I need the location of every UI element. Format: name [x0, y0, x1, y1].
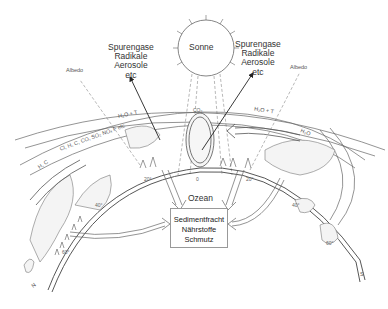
sink-line: Nährstoffe — [171, 225, 227, 235]
atmosphere-diagram: Sonne Spurengase Radikale Aerosole etc S… — [0, 0, 388, 309]
latitude-label: 60° — [62, 250, 70, 255]
central-cloud — [186, 113, 214, 167]
right-source-line: etc — [235, 68, 281, 77]
ocean-label: Ozean — [188, 194, 213, 203]
latitude-label: 20° — [246, 177, 254, 182]
sink-box: Sedimentfracht Nährstoffe Schmutz — [170, 208, 228, 248]
latitude-label: 0 — [196, 177, 199, 182]
latitude-label: 20° — [144, 177, 152, 182]
albedo-right-label: Albedo — [290, 65, 307, 71]
albedo-left-label: Albedo — [66, 68, 83, 74]
sun-label: Sonne — [189, 43, 214, 52]
sink-line: Sedimentfracht — [171, 215, 227, 225]
south-label: S — [360, 272, 364, 278]
left-sources-label: Spurengase Radikale Aerosole etc — [108, 43, 154, 80]
cloud-co2-label: CO₂ — [193, 108, 202, 113]
left-source-line: etc — [108, 71, 154, 80]
latitude-label: 60° — [326, 241, 334, 246]
sink-line: Schmutz — [171, 235, 227, 245]
latitude-label: 40° — [292, 203, 300, 208]
right-sources-label: Spurengase Radikale Aerosole etc — [235, 40, 281, 77]
latitude-label: 40° — [95, 203, 103, 208]
